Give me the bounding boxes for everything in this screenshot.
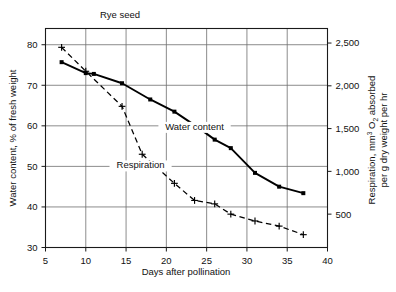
data-point-marker [172, 110, 176, 114]
data-point-marker [253, 171, 257, 175]
y-axis-tick-labels: 304050607080 [27, 39, 38, 253]
data-point-marker [277, 185, 281, 189]
rye-seed-dual-axis-chart: Rye seed 510152025303540 304050607080 50… [0, 0, 396, 292]
y2-tick-label: 2,500 [336, 37, 360, 48]
series-annotations: Water contentRespiration [110, 121, 231, 172]
x-tick-label: 35 [282, 255, 293, 266]
plot-frame [46, 29, 328, 248]
y2-tick-label: 1,000 [336, 166, 360, 177]
series-annotation-label: Respiration [117, 159, 165, 170]
series-annotation-label: Water content [165, 121, 224, 132]
y2-tick-label: 500 [336, 209, 352, 220]
x-tick-label: 30 [242, 255, 253, 266]
x-tick-label: 40 [322, 255, 333, 266]
y-tick-label: 60 [27, 120, 38, 131]
y2-axis-tick-labels: 5001,0001,5002,0002,500 [336, 37, 360, 219]
chart-figure: Rye seed 510152025303540 304050607080 50… [0, 0, 396, 292]
x-axis-tick-labels: 510152025303540 [43, 255, 333, 266]
data-point-marker [229, 146, 233, 150]
x-tick-label: 25 [201, 255, 212, 266]
x-tick-label: 20 [161, 255, 172, 266]
data-point-marker [92, 72, 96, 76]
data-series-group [58, 44, 307, 238]
data-point-marker [148, 97, 152, 101]
x-tick-label: 10 [80, 255, 91, 266]
data-point-marker [120, 81, 124, 85]
y-tick-label: 50 [27, 161, 38, 172]
data-point-marker [301, 191, 305, 195]
data-point-marker [60, 60, 64, 64]
y2-axis-title-line2: per g dry weight per hr [378, 92, 389, 187]
x-tick-label: 5 [43, 255, 48, 266]
x-tick-label: 15 [121, 255, 132, 266]
y2-tick-label: 2,000 [336, 80, 360, 91]
x-axis-title: Days after pollination [142, 266, 231, 277]
y2-tick-label: 1,500 [336, 123, 360, 134]
y-tick-label: 40 [27, 201, 38, 212]
gridlines [46, 29, 328, 248]
y-axis-title: Water content, % of fresh weight [7, 69, 18, 206]
y-tick-label: 70 [27, 80, 38, 91]
chart-title: Rye seed [100, 9, 140, 20]
data-point-marker [213, 138, 217, 142]
y-tick-label: 30 [27, 242, 38, 253]
y-tick-label: 80 [27, 39, 38, 50]
